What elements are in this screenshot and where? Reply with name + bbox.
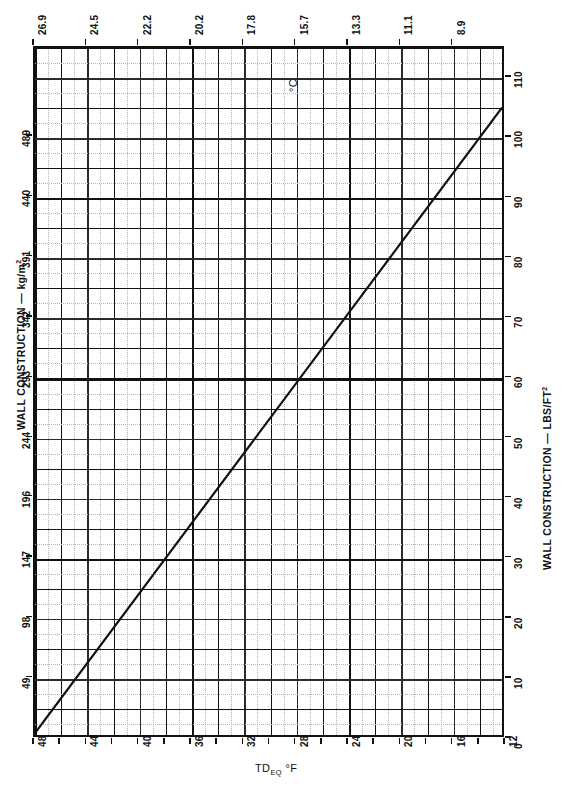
left-tick-label: 489 (21, 130, 32, 147)
right-tick-label: 100 (513, 131, 524, 148)
left-tick-label: 196 (21, 490, 32, 507)
tick-mark (268, 738, 269, 744)
tick-mark (32, 738, 33, 744)
tick-mark (425, 738, 426, 744)
tick-mark (505, 196, 511, 197)
right-tick-label: 90 (513, 197, 524, 209)
tick-mark (372, 738, 373, 744)
right-tick-label: 30 (513, 557, 524, 569)
bottom-tick-label: 36 (194, 735, 205, 747)
right-axis-title: WALL CONSTRUCTION — LBS/FT2 (540, 387, 553, 570)
bottom-tick-label: 40 (142, 735, 153, 747)
tick-mark (505, 676, 511, 677)
tick-mark (505, 316, 511, 317)
tick-mark (503, 738, 504, 744)
tick-mark (189, 39, 190, 45)
tick-mark (58, 738, 59, 744)
right-tick-label: 20 (513, 617, 524, 629)
bottom-tick-label: 28 (299, 735, 310, 747)
top-tick-label: 13.3 (351, 15, 362, 35)
tick-mark (294, 39, 295, 45)
tick-mark (505, 75, 511, 76)
tick-mark (346, 39, 347, 45)
scan-noise-band (0, 0, 567, 10)
data-line (35, 108, 502, 734)
bottom-tick-label: 32 (246, 735, 257, 747)
left-tick-label: 147 (21, 551, 32, 568)
tick-mark (189, 738, 190, 744)
tick-mark (505, 736, 511, 737)
right-tick-label: 60 (513, 377, 524, 389)
top-tick-label: 17.8 (246, 15, 257, 35)
tick-mark (505, 556, 511, 557)
tick-mark (451, 39, 452, 45)
bottom-tick-label: 44 (89, 735, 100, 747)
tick-mark (111, 738, 112, 744)
tick-mark (451, 738, 452, 744)
tick-mark (505, 376, 511, 377)
left-tick-label: 244 (21, 431, 32, 448)
tick-mark (215, 738, 216, 744)
left-tick-label: 440 (21, 190, 32, 207)
left-tick-label: 49 (21, 677, 32, 689)
right-tick-label: 110 (513, 71, 524, 88)
bottom-tick-label: 48 (37, 735, 48, 747)
data-series-layer (35, 48, 502, 733)
tick-mark (399, 738, 400, 744)
tick-mark (346, 738, 347, 744)
bottom-tick-label: 24 (351, 735, 362, 747)
tick-mark (163, 738, 164, 744)
right-tick-label: 0 (513, 743, 524, 749)
right-tick-label: 10 (513, 677, 524, 689)
tick-mark (505, 256, 511, 257)
right-tick-label: 70 (513, 317, 524, 329)
right-tick-label: 40 (513, 497, 524, 509)
top-tick-label: 15.7 (299, 15, 310, 35)
left-tick-label: 98 (21, 617, 32, 629)
tick-mark (137, 39, 138, 45)
tick-mark (242, 39, 243, 45)
tick-mark (320, 738, 321, 744)
top-tick-label: 8.9 (456, 20, 467, 35)
tick-mark (505, 496, 511, 497)
top-tick-label: 22.2 (142, 15, 153, 35)
tick-mark (505, 135, 511, 136)
right-tick-label: 80 (513, 257, 524, 269)
tick-mark (137, 738, 138, 744)
celsius-unit-annotation: °C (287, 79, 299, 92)
tick-mark (85, 738, 86, 744)
tick-mark (505, 616, 511, 617)
tick-mark (85, 39, 86, 45)
tick-mark (242, 738, 243, 744)
tick-mark (294, 738, 295, 744)
top-tick-label: 11.1 (403, 15, 414, 35)
chart-figure: °C 26.924.522.220.217.815.713.311.18.9 4… (0, 0, 567, 789)
tick-mark (32, 39, 33, 45)
left-axis-title: WALL CONSTRUCTION — kg/m2 (14, 259, 27, 430)
tick-mark (477, 738, 478, 744)
bottom-tick-label: 20 (403, 735, 414, 747)
tick-mark (399, 39, 400, 45)
plot-area: °C (33, 46, 504, 737)
bottom-tick-label: 16 (456, 735, 467, 747)
bottom-axis-title: TDEQ °F (255, 762, 297, 777)
top-tick-label: 20.2 (194, 15, 205, 35)
top-tick-label: 24.5 (89, 15, 100, 35)
top-tick-label: 26.9 (37, 15, 48, 35)
tick-mark (505, 436, 511, 437)
right-tick-label: 50 (513, 437, 524, 449)
